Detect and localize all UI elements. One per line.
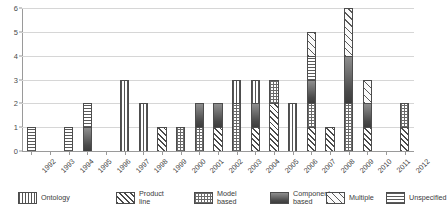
bar-segment-2004-ontology [251, 80, 261, 104]
x-tick-mark-2002 [218, 152, 219, 155]
legend-item-component-based[interactable]: Component based [270, 186, 330, 210]
x-tick-mark-2008 [330, 152, 331, 155]
bar-segment-1999-product-line [157, 127, 167, 151]
legend-item-multiple-swatch [326, 192, 345, 204]
bar-segment-1994-unspecified [64, 127, 74, 151]
bar-segment-2010-product-line [363, 127, 373, 151]
bar-2002[interactable] [213, 103, 223, 151]
bar-2005[interactable] [269, 80, 279, 151]
y-tick-label-4: 4 [14, 51, 18, 60]
bar-2006[interactable] [288, 103, 298, 151]
bar-2000[interactable] [176, 127, 186, 151]
legend-item-unspecified[interactable]: Unspecified [386, 186, 447, 210]
bar-segment-2007-product-line [307, 127, 317, 151]
bar-2007[interactable] [307, 32, 317, 151]
bar-segment-2002-product-line [213, 127, 223, 151]
x-tick-mark-2009 [349, 152, 350, 155]
bar-2012[interactable] [400, 103, 410, 151]
bar-1992[interactable] [27, 127, 37, 151]
x-axis-label-1993: 1993 [59, 157, 77, 175]
bar-segment-2009-model-based [344, 103, 354, 151]
y-tick-label-6: 6 [14, 4, 18, 13]
bar-segment-1992-unspecified [27, 127, 37, 151]
legend-item-product-line-swatch [116, 192, 135, 204]
x-tick-mark-1998 [143, 152, 144, 155]
x-axis-label-1996: 1996 [115, 157, 133, 175]
legend-item-product-line-label: Product line [139, 190, 164, 206]
bar-2008[interactable] [325, 127, 335, 151]
bar-segment-1998-ontology [139, 103, 149, 151]
x-tick-mark-1995 [87, 152, 88, 155]
legend-item-multiple[interactable]: Multiple [326, 186, 374, 210]
x-axis-label-2008: 2008 [339, 157, 357, 175]
x-tick-mark-2004 [255, 152, 256, 155]
bar-segment-1995-component-based [83, 127, 93, 151]
x-axis-label-1995: 1995 [96, 157, 114, 175]
x-axis-label-1998: 1998 [152, 157, 170, 175]
bar-segment-2005-model-based [269, 80, 279, 104]
legend-item-ontology-swatch [18, 192, 37, 204]
bar-1995[interactable] [83, 103, 93, 151]
x-axis-label-2006: 2006 [301, 157, 319, 175]
legend-item-product-line[interactable]: Product line [116, 186, 164, 210]
bar-segment-2000-model-based [176, 127, 186, 151]
bar-segment-2007-multiple [307, 32, 317, 56]
bar-segment-2002-component-based [213, 103, 223, 127]
y-tick-label-1: 1 [14, 123, 18, 132]
x-axis-label-1994: 1994 [77, 157, 95, 175]
bar-segment-1997-ontology [120, 80, 130, 152]
bar-segment-2006-ontology [288, 103, 298, 151]
x-axis-label-2007: 2007 [320, 157, 338, 175]
chart-legend: OntologyProduct lineModel basedComponent… [8, 186, 415, 210]
x-tick-mark-2010 [367, 152, 368, 155]
legend-item-multiple-label: Multiple [349, 194, 374, 202]
bar-1998[interactable] [139, 103, 149, 151]
bars-layer [22, 8, 414, 151]
bar-segment-1995-unspecified [83, 103, 93, 127]
legend-item-model-based-swatch [194, 192, 213, 204]
legend-item-unspecified-label: Unspecified [409, 194, 447, 202]
x-axis-label-2010: 2010 [376, 157, 394, 175]
bar-segment-2007-component-based [307, 80, 317, 104]
y-tick-label-3: 3 [14, 75, 18, 84]
x-tick-mark-2007 [311, 152, 312, 155]
x-tick-mark-2012 [405, 152, 406, 155]
bar-segment-2012-model-based [400, 103, 410, 127]
x-axis-label-1997: 1997 [133, 157, 151, 175]
x-axis-label-2001: 2001 [208, 157, 226, 175]
x-axis-label-1992: 1992 [40, 157, 58, 175]
bar-segment-2005-product-line [269, 103, 279, 151]
x-axis-label-2009: 2009 [357, 157, 375, 175]
bar-segment-2003-ontology [232, 80, 242, 104]
bar-1994[interactable] [64, 127, 74, 151]
bar-segment-2001-model-based [195, 127, 205, 151]
bar-2010[interactable] [363, 80, 373, 151]
legend-item-unspecified-swatch [386, 192, 405, 204]
legend-item-model-based[interactable]: Model based [194, 186, 237, 210]
bar-segment-2010-multiple [363, 80, 373, 104]
x-axis-label-2002: 2002 [227, 157, 245, 175]
bar-2001[interactable] [195, 103, 205, 151]
bar-2003[interactable] [232, 80, 242, 151]
bar-segment-2009-multiple [344, 8, 354, 56]
legend-item-ontology[interactable]: Ontology [18, 186, 70, 210]
x-tick-mark-1993 [50, 152, 51, 155]
bar-1997[interactable] [120, 80, 130, 152]
x-axis-label-2011: 2011 [395, 157, 412, 174]
bar-segment-2004-component-based [251, 103, 261, 127]
bar-2004[interactable] [251, 80, 261, 151]
bar-segment-2012-product-line [400, 127, 410, 151]
x-axis-label-2000: 2000 [189, 157, 207, 175]
x-tick-mark-1994 [69, 152, 70, 155]
y-tick-label-5: 5 [14, 27, 18, 36]
bar-1999[interactable] [157, 127, 167, 151]
bar-segment-2007-model-based [307, 103, 317, 127]
bar-segment-2001-component-based [195, 103, 205, 127]
x-axis-labels: 1992199319941995199619971998199920002001… [22, 152, 414, 186]
bar-2009[interactable] [344, 8, 354, 151]
bar-segment-2003-model-based [232, 103, 242, 151]
x-tick-mark-2003 [237, 152, 238, 155]
x-tick-mark-2006 [293, 152, 294, 155]
x-axis-label-2004: 2004 [264, 157, 282, 175]
